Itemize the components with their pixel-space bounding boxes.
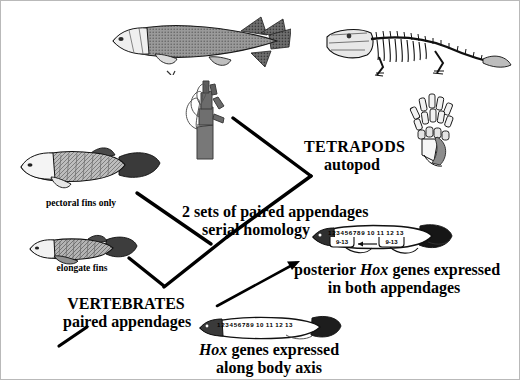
tetrapods-subtitle: autopod: [304, 156, 400, 174]
label-posterior-hox: posterior Hox genes expressed in both ap…: [294, 261, 494, 297]
two-sets-line2: serial homology: [182, 221, 330, 239]
label-pectoral-fins-only: pectoral fins only: [16, 198, 146, 209]
label-vertebrates: VERTEBRATES paired appendages: [63, 295, 189, 331]
hox-italic: Hox: [360, 261, 388, 278]
hox-italic: Hox: [199, 341, 227, 358]
body-axis-line1: Hox genes expressed: [183, 341, 355, 359]
body-axis-suffix: genes expressed: [227, 341, 339, 358]
body-axis-line2: along body axis: [183, 359, 355, 377]
posterior-hox-prefix: posterior: [294, 261, 360, 278]
tetrapods-title: TETRAPODS: [304, 138, 400, 156]
posterior-hox-line1: posterior Hox genes expressed: [294, 261, 494, 279]
vertebrates-subtitle: paired appendages: [63, 313, 189, 331]
arrow-to-posterior-hox-shaft: [217, 263, 296, 306]
branch-to-limb-skeleton: [233, 118, 311, 176]
label-hox-body-axis: Hox genes expressed along body axis: [183, 341, 355, 377]
label-two-sets-paired-appendages: 2 sets of paired appendages serial homol…: [182, 203, 330, 239]
label-tetrapods: TETRAPODS autopod: [304, 138, 400, 174]
branch-node-join: [164, 237, 227, 287]
posterior-hox-suffix: genes expressed: [388, 261, 500, 278]
two-sets-line1: 2 sets of paired appendages: [182, 203, 330, 221]
posterior-hox-line2: in both appendages: [294, 279, 494, 297]
cladogram-figure: 1 2 3 4 5 6 7 8 9 10 11 12 13 1 2 3 4 5 …: [0, 0, 520, 380]
label-elongate-fins: elongate fins: [29, 263, 135, 274]
vertebrates-title: VERTEBRATES: [63, 295, 189, 313]
